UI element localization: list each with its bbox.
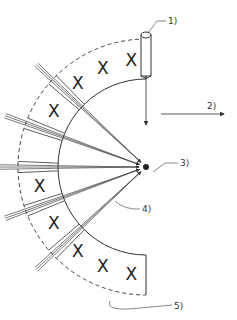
label-2: 2) (207, 101, 216, 111)
leader-5 (109, 301, 172, 309)
x-marker: X (97, 256, 109, 276)
radiation-beams (0, 63, 141, 271)
source-cylinder: 1) (141, 16, 177, 125)
focus-point (143, 164, 149, 170)
x-marker: X (72, 241, 84, 261)
leader-3 (153, 163, 178, 172)
x-marker: X (34, 176, 46, 196)
label-1: 1) (168, 16, 177, 26)
x-marker: X (125, 50, 137, 70)
x-marker: X (48, 101, 60, 121)
label-4: 4) (142, 204, 151, 214)
label-5: 5) (174, 301, 183, 311)
x-marker: X (48, 213, 60, 233)
x-marker: X (125, 264, 137, 284)
label-3: 3) (180, 158, 189, 168)
x-marker: X (72, 73, 84, 93)
irradiation-diagram: XXXXXXXXXX 1) 2) 3) 4) 5) (0, 0, 237, 320)
leader-1 (148, 21, 166, 33)
leader-4 (115, 201, 140, 209)
x-marker: X (97, 58, 109, 78)
